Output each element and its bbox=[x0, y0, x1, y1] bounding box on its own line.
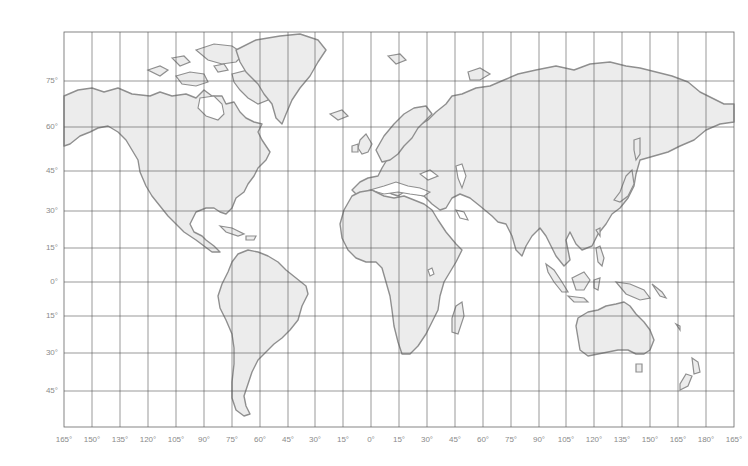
lon-label: 60° bbox=[245, 435, 275, 444]
lon-label: 0° bbox=[356, 435, 386, 444]
lon-label: 30° bbox=[300, 435, 330, 444]
persian-gulf bbox=[456, 210, 468, 220]
arctic-island-1 bbox=[148, 66, 168, 76]
lon-label: 105° bbox=[551, 435, 581, 444]
sumatra bbox=[546, 264, 568, 292]
lat-label-75n: 75° bbox=[28, 76, 58, 85]
lon-label: 15° bbox=[328, 435, 358, 444]
lat-label-0: 0° bbox=[28, 277, 58, 286]
sulawesi bbox=[594, 278, 600, 290]
lon-label: 135° bbox=[105, 435, 135, 444]
lat-label-15s: 15° bbox=[28, 311, 58, 320]
australia bbox=[576, 302, 654, 356]
lat-label-60n: 60° bbox=[28, 122, 58, 131]
madagascar bbox=[452, 302, 464, 334]
arctic-island-3 bbox=[214, 64, 228, 72]
lon-label: 105° bbox=[161, 435, 191, 444]
lon-label: 165° bbox=[49, 435, 79, 444]
java bbox=[568, 296, 588, 302]
lon-label: 90° bbox=[524, 435, 554, 444]
lat-label-15n: 15° bbox=[28, 243, 58, 252]
new-guinea bbox=[616, 282, 650, 300]
lon-label: 180° bbox=[691, 435, 721, 444]
arctic-island-2 bbox=[172, 56, 190, 66]
hispaniola bbox=[246, 236, 256, 240]
lon-label: 165° bbox=[719, 435, 748, 444]
ireland bbox=[352, 144, 358, 152]
arctic-island-victoria bbox=[176, 72, 208, 86]
map-canvas bbox=[0, 0, 748, 466]
lat-label-30n: 30° bbox=[28, 206, 58, 215]
new-zealand-north bbox=[692, 358, 700, 374]
lon-label: 75° bbox=[496, 435, 526, 444]
lon-label: 60° bbox=[468, 435, 498, 444]
lon-label: 150° bbox=[635, 435, 665, 444]
great-britain bbox=[358, 134, 372, 154]
lat-label-45s: 45° bbox=[28, 386, 58, 395]
lon-label: 120° bbox=[579, 435, 609, 444]
lon-label: 150° bbox=[77, 435, 107, 444]
lon-label: 135° bbox=[607, 435, 637, 444]
iceland bbox=[330, 110, 348, 120]
solomon-islands bbox=[652, 284, 666, 298]
north-america bbox=[64, 88, 270, 252]
lat-label-45n: 45° bbox=[28, 166, 58, 175]
africa bbox=[340, 190, 462, 354]
lon-label: 45° bbox=[273, 435, 303, 444]
lon-label: 165° bbox=[663, 435, 693, 444]
lon-label: 75° bbox=[217, 435, 247, 444]
lon-label: 15° bbox=[384, 435, 414, 444]
lon-label: 30° bbox=[412, 435, 442, 444]
novaya-zemlya bbox=[468, 68, 490, 80]
new-zealand-south bbox=[680, 374, 692, 390]
philippines bbox=[596, 246, 604, 266]
tasmania bbox=[636, 364, 642, 372]
lon-label: 90° bbox=[189, 435, 219, 444]
lon-label: 45° bbox=[440, 435, 470, 444]
svalbard bbox=[388, 54, 406, 64]
lat-label-30s: 30° bbox=[28, 348, 58, 357]
lon-label: 120° bbox=[133, 435, 163, 444]
borneo bbox=[572, 272, 590, 290]
